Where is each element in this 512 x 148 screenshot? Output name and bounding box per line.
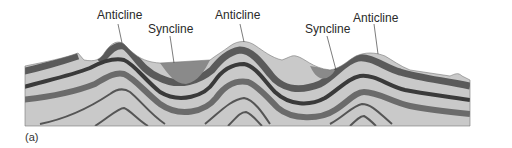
fold-diagram: Anticline Syncline Anticline Syncline An… — [0, 0, 512, 148]
label-syncline-2: Syncline — [305, 22, 351, 36]
label-anticline-1: Anticline — [97, 8, 143, 22]
leader-syncline-2 — [327, 36, 336, 70]
leader-syncline-1 — [170, 36, 174, 63]
label-anticline-3: Anticline — [353, 11, 399, 25]
figure-caption: (a) — [25, 131, 38, 143]
label-syncline-1: Syncline — [148, 22, 194, 36]
leader-anticline-3 — [374, 24, 378, 54]
leader-anticline-2 — [240, 24, 244, 42]
label-anticline-2: Anticline — [215, 8, 261, 22]
rock-block — [20, 40, 480, 130]
leader-anticline-1 — [118, 24, 122, 43]
